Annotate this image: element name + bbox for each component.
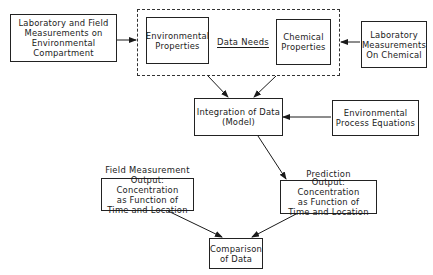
integration-model-box: Integration of Data (Model) xyxy=(194,98,283,136)
field-output-text: Output: Concentration as Function of Tim… xyxy=(102,175,193,215)
field-measurement-label: Field Measurement xyxy=(101,165,194,175)
prediction-output-box: Output: Concentration as Function of Tim… xyxy=(280,180,377,214)
chemical-properties-box: Chemical Properties xyxy=(276,19,331,65)
chemical-properties-text: Chemical Properties xyxy=(281,32,325,52)
comparison-of-data-text: Comparison of Data xyxy=(210,244,262,264)
environmental-process-equations-text: Environmental Process Equations xyxy=(336,108,415,128)
lab-chemical-measurements-text: Laboratory Measurements On Chemical xyxy=(362,30,426,60)
data-needs-label: Data Needs xyxy=(213,37,273,47)
field-output-box: Output: Concentration as Function of Tim… xyxy=(101,178,194,211)
environmental-properties-text: Environmental Properties xyxy=(146,31,210,51)
lab-field-measurements-text: Laboratory and Field Measurements on Env… xyxy=(18,18,108,58)
lab-chemical-measurements-box: Laboratory Measurements On Chemical xyxy=(361,21,427,68)
prediction-output-text: Output: Concentration as Function of Tim… xyxy=(281,177,376,217)
environmental-process-equations-box: Environmental Process Equations xyxy=(332,100,419,136)
comparison-of-data-box: Comparison of Data xyxy=(209,238,263,269)
environmental-properties-box: Environmental Properties xyxy=(146,17,209,64)
integration-model-text: Integration of Data (Model) xyxy=(197,107,280,127)
lab-field-measurements-box: Laboratory and Field Measurements on Env… xyxy=(10,14,117,62)
